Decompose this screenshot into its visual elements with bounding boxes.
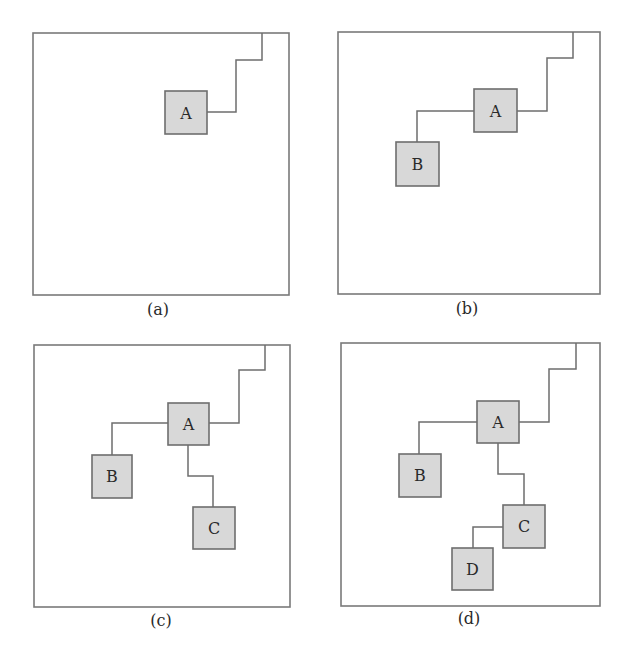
node-label: A [179, 104, 192, 123]
node-c: C [503, 505, 545, 548]
panel-caption: (d) [458, 609, 481, 628]
node-label: C [518, 517, 530, 536]
node-b: B [92, 455, 132, 498]
panel-a: A (a) [33, 33, 289, 319]
node-c: C [193, 507, 235, 549]
panel-frame [338, 32, 600, 294]
node-a: A [165, 91, 207, 134]
panel-c: A B C (c) [34, 345, 290, 630]
node-label: B [106, 467, 118, 486]
node-d: D [452, 548, 493, 590]
node-label: A [491, 413, 504, 432]
panel-caption: (c) [150, 611, 171, 630]
panel-frame [34, 345, 290, 607]
tree-growth-figure: A (a) A B (b) A B C [0, 0, 633, 657]
panel-d: A B C D (d) [341, 343, 600, 628]
node-label: B [414, 466, 426, 485]
node-label: D [466, 560, 479, 579]
panel-caption: (a) [147, 300, 169, 319]
node-a: A [477, 401, 519, 443]
node-a: A [168, 403, 209, 445]
node-a: A [474, 89, 517, 132]
panel-caption: (b) [456, 299, 479, 318]
node-b: B [396, 142, 439, 186]
node-label: A [489, 102, 502, 121]
node-label: A [182, 415, 195, 434]
panel-b: A B (b) [338, 32, 600, 318]
node-b: B [399, 454, 441, 497]
panel-frame [33, 33, 289, 295]
node-label: B [412, 155, 424, 174]
node-label: C [208, 519, 220, 538]
